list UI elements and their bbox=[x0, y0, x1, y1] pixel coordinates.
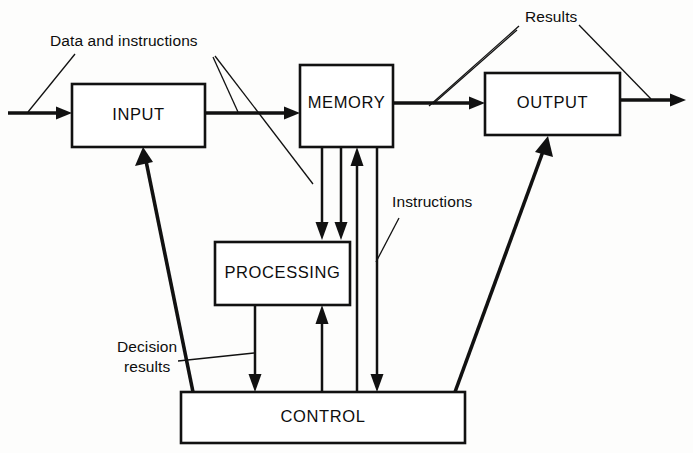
leader-instructions bbox=[376, 218, 399, 262]
box-memory[interactable]: MEMORY bbox=[300, 65, 393, 147]
annotation-data-and-instructions: Data and instructions bbox=[50, 32, 198, 49]
flow-output-to-external bbox=[620, 94, 686, 107]
leader-data-and-instructions-left bbox=[28, 54, 75, 112]
box-processing-label: PROCESSING bbox=[224, 263, 340, 281]
box-input[interactable]: INPUT bbox=[72, 84, 205, 147]
flow-control-to-input bbox=[135, 147, 193, 392]
annotation-instructions: Instructions bbox=[392, 193, 473, 210]
box-output-label: OUTPUT bbox=[517, 93, 588, 111]
flow-memory-to-processing-a bbox=[316, 147, 329, 240]
flow-control-to-memory bbox=[351, 147, 364, 392]
diagram-canvas: INPUT MEMORY OUTPUT PROCESSING CONTROL D… bbox=[0, 0, 693, 453]
flow-control-to-processing bbox=[316, 305, 329, 392]
flow-external-to-input bbox=[8, 107, 72, 120]
flow-input-to-memory bbox=[205, 107, 300, 120]
annotation-decision-results-line1: Decision bbox=[117, 338, 177, 355]
box-control[interactable]: CONTROL bbox=[181, 392, 465, 443]
flow-memory-to-control bbox=[371, 147, 384, 392]
leader-data-and-instructions-right bbox=[213, 56, 313, 184]
computer-system-block-diagram: INPUT MEMORY OUTPUT PROCESSING CONTROL D… bbox=[0, 0, 693, 453]
leader-decision-results bbox=[178, 353, 254, 361]
flow-control-to-output bbox=[455, 136, 553, 392]
box-control-label: CONTROL bbox=[281, 407, 366, 425]
box-memory-label: MEMORY bbox=[308, 93, 386, 111]
box-output[interactable]: OUTPUT bbox=[485, 73, 620, 135]
flow-memory-to-processing-b bbox=[335, 147, 348, 240]
box-input-label: INPUT bbox=[112, 105, 165, 123]
flow-processing-to-control bbox=[249, 305, 262, 392]
annotation-decision-results-line2: results bbox=[124, 358, 171, 375]
box-processing[interactable]: PROCESSING bbox=[215, 242, 350, 305]
annotation-results: Results bbox=[525, 8, 578, 25]
